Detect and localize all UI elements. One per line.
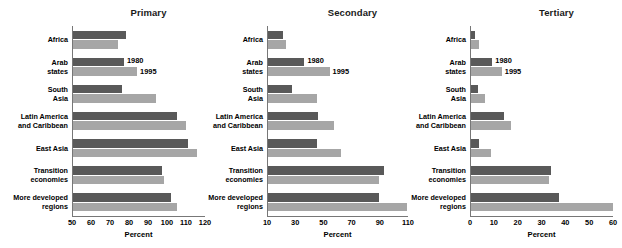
category-label: More developed regions [408, 193, 470, 211]
x-tick-label: 50 [319, 218, 327, 227]
category-label: South Asia [205, 85, 267, 103]
axis-track: 5060708090100110120 [72, 216, 205, 230]
category-label: Arab states [408, 58, 470, 76]
row-bars [267, 26, 408, 53]
axis-gutter [408, 216, 470, 230]
row-bars [72, 189, 205, 216]
bar-row: More developed regions [0, 189, 205, 216]
category-label: East Asia [0, 144, 72, 153]
bar-1980 [268, 58, 304, 67]
bar-1995 [268, 203, 407, 212]
bar-row: Transition economies [205, 162, 408, 189]
row-bars [72, 80, 205, 107]
category-label: Transition economies [408, 166, 470, 184]
bar-1980 [471, 31, 475, 40]
x-axis-title: Percent [205, 230, 408, 239]
category-label: South Asia [0, 85, 72, 103]
category-label: Africa [408, 35, 470, 44]
bar-1995 [73, 203, 177, 212]
bar-1995 [73, 121, 186, 130]
row-bars [267, 80, 408, 107]
row-bars [470, 162, 613, 189]
bar-1995 [73, 40, 118, 49]
row-bars [267, 162, 408, 189]
x-tick-label: 70 [106, 218, 114, 227]
row-bars [72, 107, 205, 134]
row-bars [267, 135, 408, 162]
category-label: Arab states [0, 58, 72, 76]
x-tick-label: 10 [490, 218, 498, 227]
bar-1995 [73, 176, 164, 185]
bar-1980 [73, 85, 122, 94]
bar-1980 [73, 166, 162, 175]
bar-row: East Asia [408, 135, 613, 162]
bar-1995 [471, 203, 613, 212]
category-label: Transition economies [0, 166, 72, 184]
bar-1995 [471, 67, 502, 76]
bar-row: Africa [0, 26, 205, 53]
bar-row: Africa [408, 26, 613, 53]
axis-track: 1030507090110 [267, 216, 408, 230]
bar-1995 [268, 40, 286, 49]
bar-1980 [268, 139, 317, 148]
bar-row: More developed regions [408, 189, 613, 216]
bar-1980 [471, 58, 492, 67]
x-tick-label: 40 [561, 218, 569, 227]
x-tick-label: 60 [87, 218, 95, 227]
x-tick-label: 30 [537, 218, 545, 227]
x-axis-title: Percent [0, 230, 205, 239]
bar-1995 [73, 149, 197, 158]
bar-row: Latin America and Caribbean [408, 107, 613, 134]
legend-label-1980: 1980 [307, 57, 323, 64]
x-tick-label: 30 [291, 218, 299, 227]
x-tick-label: 20 [514, 218, 522, 227]
bar-1995 [471, 176, 549, 185]
x-tick-label: 80 [125, 218, 133, 227]
bar-1980 [471, 139, 479, 148]
bar-1980 [73, 139, 188, 148]
bar-1995 [471, 94, 485, 103]
legend-label-1995: 1995 [140, 68, 156, 75]
bar-row: South Asia [205, 80, 408, 107]
bar-1980 [471, 193, 559, 202]
bar-1980 [268, 166, 384, 175]
legend-label-1995: 1995 [333, 68, 349, 75]
row-bars [267, 107, 408, 134]
plot-area: AfricaArab states19801995South AsiaLatin… [0, 26, 205, 216]
bar-1980 [268, 112, 318, 121]
bar-row: East Asia [205, 135, 408, 162]
x-tick-label: 100 [161, 218, 173, 227]
category-label: More developed regions [205, 193, 267, 211]
row-bars: 19801995 [72, 53, 205, 80]
x-tick-label: 110 [180, 218, 192, 227]
panel-title: Tertiary [408, 7, 622, 18]
category-label: Africa [0, 35, 72, 44]
plot-area: AfricaArab states19801995South AsiaLatin… [205, 26, 408, 216]
x-tick-label: 60 [609, 218, 617, 227]
x-tick-label: 90 [376, 218, 384, 227]
bar-1980 [471, 166, 551, 175]
bar-1995 [268, 121, 334, 130]
x-axis-title: Percent [408, 230, 613, 239]
bar-1980 [73, 193, 171, 202]
x-axis: 0102030405060Percent [408, 216, 613, 248]
x-tick-label: 10 [263, 218, 271, 227]
bar-1980 [268, 193, 379, 202]
bar-row: More developed regions [205, 189, 408, 216]
bar-1995 [73, 94, 156, 103]
category-label: South Asia [408, 85, 470, 103]
x-axis: 5060708090100110120Percent [0, 216, 205, 248]
row-bars [72, 26, 205, 53]
bar-row: Arab states19801995 [205, 53, 408, 80]
bar-row: East Asia [0, 135, 205, 162]
bar-1980 [268, 85, 292, 94]
category-label: East Asia [408, 144, 470, 153]
bar-row: Transition economies [408, 162, 613, 189]
category-label: Latin America and Caribbean [408, 112, 470, 130]
bar-1980 [73, 58, 124, 67]
bar-1995 [471, 149, 491, 158]
plot-area: AfricaArab states19801995South AsiaLatin… [408, 26, 613, 216]
bar-1980 [471, 85, 478, 94]
x-tick-label: 50 [68, 218, 76, 227]
chart-panel-tertiary: TertiaryAfricaArab states19801995South A… [408, 0, 613, 248]
